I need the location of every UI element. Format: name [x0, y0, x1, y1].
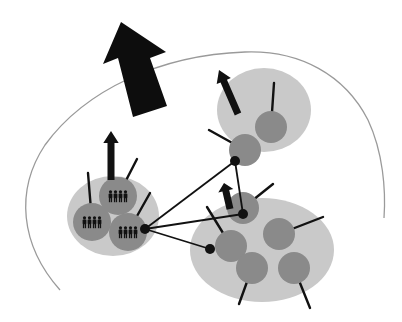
hub-node: [205, 244, 215, 254]
cluster-node: [263, 218, 295, 250]
cluster-node: [255, 111, 287, 143]
diagram-canvas: Clusters of groups inside a larger bound…: [0, 0, 402, 322]
hub-node: [140, 224, 150, 234]
cluster-top-right: [209, 68, 311, 166]
cluster-left: [67, 131, 159, 256]
cluster-node: [278, 252, 310, 284]
hub-node: [238, 209, 248, 219]
up-arrow-icon: [103, 131, 118, 180]
big-arrow-icon: [103, 22, 167, 117]
hub-node: [230, 156, 240, 166]
network-cluster-diagram: [0, 0, 402, 322]
cluster-node: [236, 252, 268, 284]
up-arrow-icon: [218, 183, 233, 210]
cluster-node: [73, 203, 111, 241]
